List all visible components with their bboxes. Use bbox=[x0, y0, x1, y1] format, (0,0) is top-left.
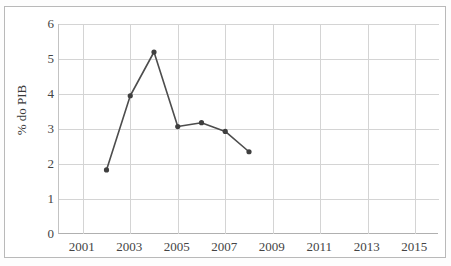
y-axis-tick-label: 1 bbox=[14, 192, 54, 205]
series-line bbox=[107, 52, 250, 170]
plot-area bbox=[58, 24, 438, 234]
chart-figure: % do PIB 0123456 20012003200520072009201… bbox=[0, 0, 451, 266]
y-axis-tick-label: 6 bbox=[14, 17, 54, 30]
x-axis-tick-label: 2015 bbox=[384, 239, 444, 254]
line-series-layer bbox=[59, 24, 439, 234]
data-point-marker bbox=[104, 167, 109, 172]
y-axis-tick-label: 3 bbox=[14, 122, 54, 135]
y-axis-tick-labels: 0123456 bbox=[10, 24, 54, 234]
data-point-marker bbox=[151, 49, 156, 54]
data-point-marker bbox=[199, 120, 204, 125]
y-axis-tick-label: 2 bbox=[14, 157, 54, 170]
y-axis-tick-label: 4 bbox=[14, 87, 54, 100]
data-point-marker bbox=[223, 129, 228, 134]
data-point-marker bbox=[246, 149, 251, 154]
y-axis-tick-label: 0 bbox=[14, 227, 54, 240]
x-axis-tick-labels: 20012003200520072009201120132015 bbox=[58, 239, 438, 259]
chart-frame: % do PIB 0123456 20012003200520072009201… bbox=[4, 6, 446, 258]
y-axis-tick-label: 5 bbox=[14, 52, 54, 65]
data-point-marker bbox=[175, 124, 180, 129]
data-point-marker bbox=[128, 93, 133, 98]
